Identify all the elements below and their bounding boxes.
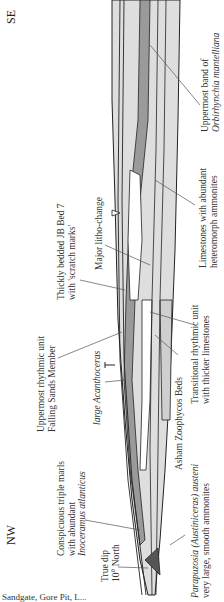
label-jb-bed-7: Thickly bedded JB Bed 7with 'scratch mar… [56, 203, 77, 300]
direction-se: SE [4, 10, 19, 24]
direction-nw: NW [4, 525, 19, 545]
label-litho-change: Major litho-change [94, 197, 105, 270]
label-transitional: Transitional rhythmic unitwith thicker l… [190, 305, 211, 404]
label-acanthoceras: large Acanthoceras [92, 351, 103, 425]
figure-caption: Sandgate, Gore Pit, L... [2, 592, 87, 602]
label-falling-sands: Uppermost rhythmic unitFalling Sands Mem… [36, 336, 57, 432]
label-orbirhynchia: Uppermost band ofOrbirhynchia mantellian… [200, 33, 221, 132]
label-triple-marls: Conspicuous triple marlswith abundantIno… [56, 461, 88, 556]
label-parapuzosia: Parapuzosia (Austiniceras) austenivery l… [190, 464, 211, 598]
label-zoophycos: Asham Zoophycos Beds [174, 377, 185, 470]
label-true-dip: True dip10° North [100, 544, 121, 582]
label-heteromorph: Limestones with abundantheteromorph ammo… [198, 168, 219, 268]
